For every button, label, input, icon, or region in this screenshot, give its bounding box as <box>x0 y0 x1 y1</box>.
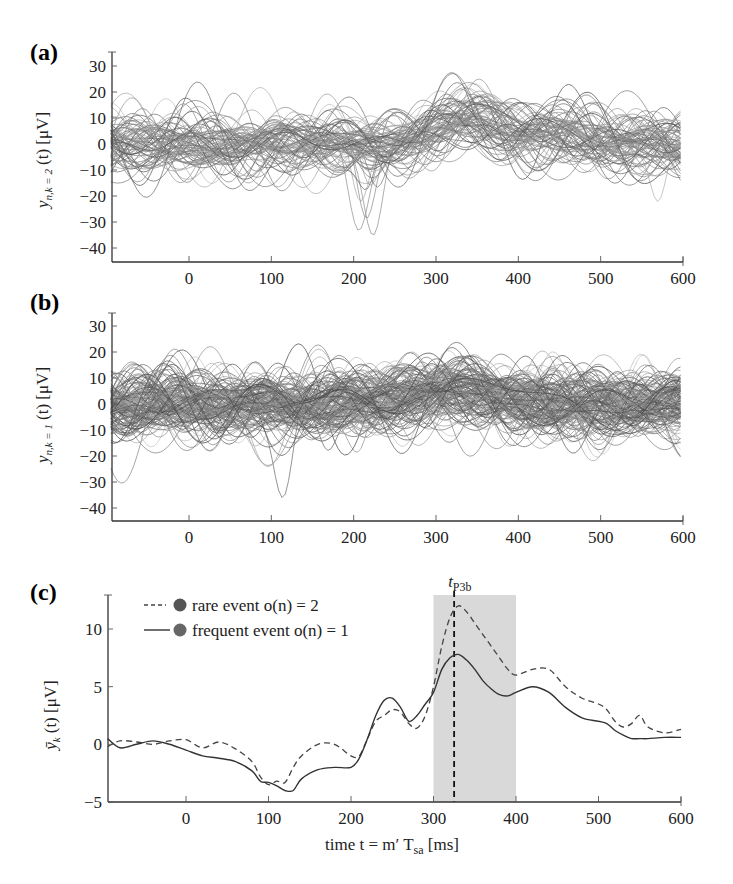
y-tick-label: 30 <box>89 57 106 76</box>
x-tick-label: 200 <box>338 809 364 828</box>
y-tick-label: −40 <box>79 499 106 518</box>
legend-marker-dot <box>174 624 187 637</box>
x-tick-label: 300 <box>423 528 449 547</box>
x-tick-label: 0 <box>182 809 191 828</box>
x-tick-label: 400 <box>506 528 532 547</box>
x-tick-label: 600 <box>668 809 694 828</box>
p3b-marker-label: tP3b <box>448 572 471 594</box>
legend: rare event o(n) = 2 frequent event o(n) … <box>144 596 349 640</box>
y-tick-label: 20 <box>89 83 106 102</box>
legend-item-rare: rare event o(n) = 2 <box>144 596 319 615</box>
x-tick-label: 400 <box>506 269 532 288</box>
panel-label-c: (c) <box>30 579 57 605</box>
panel-a: (a) −40−30−20−10010203001002003004005006… <box>30 39 696 288</box>
x-tick-label: 100 <box>256 809 282 828</box>
x-tick-label: 100 <box>259 269 285 288</box>
x-tick-label: 600 <box>670 528 696 547</box>
y-tick-label: −40 <box>79 239 106 258</box>
x-tick-label: 400 <box>503 809 529 828</box>
trace-bundle-a <box>111 73 681 235</box>
y-tick-label: −20 <box>79 447 106 466</box>
ylabel-c: ȳk(t) [μV] <box>41 680 62 751</box>
y-tick-label: −10 <box>79 161 106 180</box>
y-tick-label: 10 <box>89 369 106 388</box>
y-tick-label: 30 <box>89 317 106 336</box>
x-tick-label: 500 <box>586 809 612 828</box>
y-tick-label: −30 <box>79 213 106 232</box>
x-tick-label: 300 <box>423 269 449 288</box>
y-tick-label: −30 <box>79 473 106 492</box>
y-tick-label: 20 <box>89 343 106 362</box>
y-tick-label: 10 <box>85 620 102 639</box>
y-tick-label: 0 <box>94 735 103 754</box>
y-tick-label: 0 <box>98 395 107 414</box>
xlabel: time t = m′ Tsa [ms] <box>325 835 459 857</box>
trace-bundle-b <box>111 342 681 497</box>
x-tick-label: 0 <box>185 269 194 288</box>
ylabel-a: yn,k = 2(t) [μV] <box>33 112 54 210</box>
x-tick-label: 100 <box>259 528 285 547</box>
panel-label-a: (a) <box>30 39 58 65</box>
x-tick-label: 600 <box>670 269 696 288</box>
p3b-window-shading <box>434 595 517 802</box>
legend-marker-dot <box>174 599 187 612</box>
x-tick-label: 200 <box>341 528 367 547</box>
legend-label-frequent: frequent event o(n) = 1 <box>192 621 349 640</box>
x-tick-label: 0 <box>185 528 194 547</box>
frequent-event-average-curve <box>108 654 681 791</box>
x-tick-label: 200 <box>341 269 367 288</box>
panel-b: (b) −40−30−20−10010203001002003004005006… <box>30 289 696 547</box>
x-tick-label: 500 <box>588 528 614 547</box>
y-tick-label: 0 <box>98 135 107 154</box>
legend-label-rare: rare event o(n) = 2 <box>192 596 319 615</box>
figure: (a) −40−30−20−10010203001002003004005006… <box>0 0 733 884</box>
panel-label-b: (b) <box>30 289 59 315</box>
y-tick-label: 10 <box>89 109 106 128</box>
y-tick-label: −10 <box>79 421 106 440</box>
x-tick-label: 500 <box>588 269 614 288</box>
panel-c: (c) tP3b −505100100200300400500600 ȳk(t)… <box>30 572 694 857</box>
y-tick-label: −5 <box>84 793 102 812</box>
legend-item-frequent: frequent event o(n) = 1 <box>144 621 349 640</box>
y-tick-label: −20 <box>79 187 106 206</box>
y-tick-label: 5 <box>94 678 103 697</box>
x-tick-label: 300 <box>421 809 447 828</box>
ylabel-b: yn,k = 1(t) [μV] <box>33 367 54 465</box>
